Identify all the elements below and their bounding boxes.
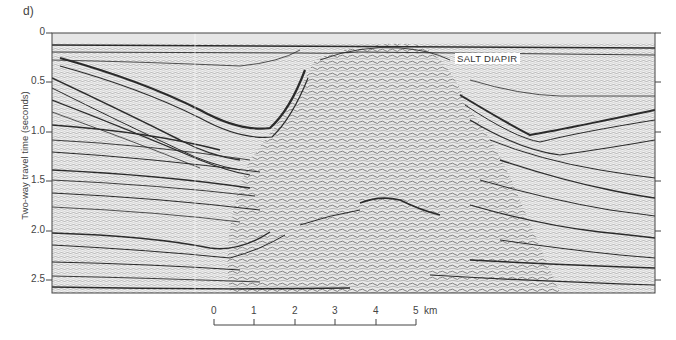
scale-label-2: 2 bbox=[292, 305, 298, 316]
scale-label-4: 4 bbox=[373, 305, 379, 316]
scale-bar bbox=[214, 319, 416, 325]
scale-label-0: 0 bbox=[211, 305, 217, 316]
scale-unit-label: km bbox=[424, 305, 437, 316]
reflector-data bbox=[52, 33, 655, 293]
salt-diapir-annotation: SALT DIAPIR bbox=[455, 53, 520, 64]
scale-label-1: 1 bbox=[251, 305, 257, 316]
scale-label-5: 5 bbox=[413, 305, 419, 316]
scale-label-3: 3 bbox=[332, 305, 338, 316]
y-ticks-right bbox=[655, 33, 661, 280]
y-ticks-left bbox=[46, 33, 52, 280]
seismic-section bbox=[0, 0, 676, 340]
